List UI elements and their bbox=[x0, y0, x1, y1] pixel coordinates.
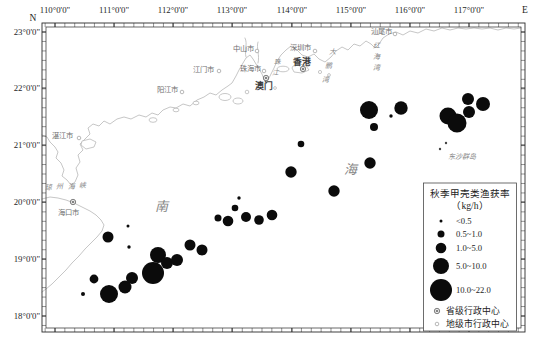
station-circle bbox=[448, 114, 467, 133]
station-circle bbox=[476, 97, 490, 111]
x-axis-tick-label: 111°0'0" bbox=[99, 5, 129, 15]
legend-size-label: 0.5~1.0 bbox=[456, 229, 482, 239]
city-label: 汕尾市 bbox=[371, 27, 392, 36]
station-circle bbox=[103, 232, 114, 243]
city-label: 深圳市 bbox=[290, 43, 311, 52]
y-axis-tick-label: 18°0'0" bbox=[14, 311, 41, 321]
prefecture-center-icon bbox=[393, 32, 397, 36]
station-circle bbox=[185, 240, 196, 251]
station-circle bbox=[364, 157, 375, 168]
sea-label: 红 bbox=[373, 42, 381, 50]
island bbox=[193, 101, 199, 105]
north-label: N bbox=[30, 13, 37, 23]
legend-admin-label: 省级行政中心 bbox=[446, 305, 500, 316]
station-circle bbox=[215, 215, 222, 222]
lantau-island bbox=[277, 66, 289, 72]
station-circle bbox=[237, 196, 240, 199]
city-label: 阳江市 bbox=[157, 85, 178, 94]
y-axis-tick-label: 20°0'0" bbox=[14, 197, 41, 207]
prefecture-center-icon bbox=[77, 136, 81, 140]
x-axis-tick-label: 116°0'0" bbox=[395, 5, 426, 15]
station-circle bbox=[232, 205, 239, 212]
station-circle bbox=[285, 166, 296, 177]
prefecture-center-icon bbox=[313, 49, 317, 53]
prefecture-center-icon bbox=[435, 322, 439, 326]
island bbox=[219, 94, 231, 101]
city-label: 湛江市 bbox=[52, 131, 73, 140]
sea-label: 珠 bbox=[274, 58, 281, 65]
y-axis-tick-label: 23°0'0" bbox=[14, 27, 41, 37]
y-axis-tick-label: 21°0'0" bbox=[14, 140, 41, 150]
legend-size-label: <0.5 bbox=[456, 216, 472, 226]
station-circle bbox=[171, 254, 183, 266]
legend-size-symbol bbox=[433, 258, 449, 274]
city-label: 澳门 bbox=[255, 80, 273, 91]
city-label: 江门市 bbox=[193, 65, 214, 74]
islet bbox=[318, 70, 321, 73]
station-circle bbox=[254, 215, 264, 225]
station-circle bbox=[127, 225, 130, 228]
prefecture-center-icon bbox=[262, 69, 266, 73]
island-dot bbox=[445, 142, 447, 144]
prefecture-center-icon bbox=[180, 90, 184, 94]
prefecture-center-icon bbox=[255, 49, 259, 53]
sea-label: 东沙群岛 bbox=[448, 153, 477, 161]
legend-size-symbol bbox=[430, 279, 452, 301]
legend-size-label: 1.0~5.0 bbox=[456, 243, 482, 253]
x-axis-tick-label: 112°0'0" bbox=[158, 5, 189, 15]
city-label: 香港 bbox=[292, 56, 311, 67]
station-circle bbox=[100, 285, 118, 303]
x-axis-tick-label: 113°0'0" bbox=[217, 5, 248, 15]
island bbox=[233, 98, 243, 104]
island-dot bbox=[439, 148, 441, 150]
x-axis-tick-label: 110°0'0" bbox=[40, 5, 71, 15]
x-axis-tick-label: 117°0'0" bbox=[454, 5, 485, 15]
sea-label: 大 bbox=[329, 48, 337, 56]
station-circle bbox=[241, 212, 251, 222]
sea-label: 海 bbox=[344, 162, 359, 177]
legend-size-symbol bbox=[438, 231, 445, 238]
station-circle bbox=[90, 275, 99, 284]
sea-label: 江 bbox=[272, 69, 280, 76]
station-circle bbox=[267, 210, 278, 221]
islet bbox=[245, 90, 249, 94]
legend-size-label: 10.0~22.0 bbox=[456, 285, 491, 295]
x-axis-tick-label: 114°0'0" bbox=[277, 5, 308, 15]
y-axis-tick-label: 19°0'0" bbox=[14, 254, 41, 264]
station-circle bbox=[360, 101, 378, 119]
station-circle bbox=[223, 216, 234, 227]
island bbox=[173, 108, 179, 112]
station-circle bbox=[126, 272, 138, 284]
sea-label: 湾 bbox=[322, 76, 330, 84]
sea-label: 湾 bbox=[373, 64, 381, 72]
station-circle bbox=[142, 262, 164, 284]
y-axis-tick-label: 22°0'0" bbox=[14, 83, 41, 93]
map-figure: 湛江市阳江市江门市中山市珠海市深圳市汕尾市香港澳门海口市 琼州海峡南海珠江大鹏湾… bbox=[0, 0, 533, 344]
legend-admin-label: 地级市行政中心 bbox=[446, 318, 509, 329]
station-circle bbox=[394, 101, 407, 114]
sea-label: 南 bbox=[155, 199, 170, 214]
station-circle bbox=[463, 106, 475, 118]
legend-size-label: 5.0~10.0 bbox=[456, 261, 486, 271]
station-circle bbox=[462, 93, 474, 105]
station-circle bbox=[389, 114, 392, 117]
islet bbox=[274, 87, 277, 90]
x-axis-tick-label: 115°0'0" bbox=[336, 5, 367, 15]
city-label: 海口市 bbox=[58, 208, 79, 217]
legend-size-symbol bbox=[436, 243, 447, 254]
city-label: 中山市 bbox=[233, 44, 254, 53]
station-circle bbox=[370, 123, 378, 131]
station-circle bbox=[127, 245, 130, 248]
sea-label: 海 bbox=[373, 53, 381, 61]
legend-title: 秋季甲壳类渔获率 bbox=[430, 188, 510, 199]
city-label: 珠海市 bbox=[240, 64, 261, 73]
sea-label: 鹏 bbox=[325, 62, 333, 70]
station-circle bbox=[328, 185, 339, 196]
station-circle bbox=[81, 292, 85, 296]
south-china-sea-map: 湛江市阳江市江门市中山市珠海市深圳市汕尾市香港澳门海口市 琼州海峡南海珠江大鹏湾… bbox=[0, 0, 533, 344]
east-label: E bbox=[522, 5, 528, 15]
station-circle bbox=[298, 141, 305, 148]
legend-unit: （kg/h） bbox=[451, 200, 488, 211]
prefecture-center-icon bbox=[217, 69, 221, 73]
station-circle bbox=[197, 245, 208, 256]
